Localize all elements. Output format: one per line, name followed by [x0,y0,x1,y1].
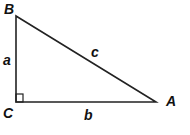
right-angle-marker [16,94,23,102]
triangle [16,16,156,102]
side-label-b: b [84,108,93,122]
side-label-c: c [91,45,99,59]
vertex-label-c: C [3,106,13,120]
vertex-label-b: B [4,2,14,16]
triangle-figure [0,0,190,135]
vertex-label-a: A [166,94,176,108]
side-label-a: a [3,53,11,67]
